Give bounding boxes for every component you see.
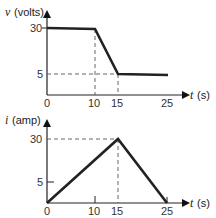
- x-tick-25: 25: [161, 205, 173, 217]
- x-tick-25: 25: [161, 97, 173, 109]
- y-axis-unit: (amp): [12, 114, 41, 126]
- y-axis-unit: (volts): [14, 6, 44, 18]
- x-tick-10: 10: [88, 97, 100, 109]
- y-axis-var: i: [5, 113, 8, 127]
- x-tick-15: 15: [111, 205, 123, 217]
- x-tick-0: 0: [44, 97, 50, 109]
- y-axis-var: v: [5, 5, 11, 19]
- x-axis-var: t: [190, 88, 194, 102]
- current-chart: i (amp) 30 5 0 10 15 25 t (s): [5, 113, 210, 217]
- charts-canvas: v (volts) 30 5 0 10 15 25 t (s) i (amp) …: [0, 0, 216, 218]
- x-tick-15: 15: [111, 97, 123, 109]
- y-tick-30: 30: [30, 22, 42, 34]
- x-tick-10: 10: [88, 205, 100, 217]
- x-axis-unit: (s): [197, 197, 210, 209]
- current-line: [47, 139, 167, 203]
- y-tick-30: 30: [30, 133, 42, 145]
- x-axis-unit: (s): [197, 89, 210, 101]
- y-tick-5: 5: [37, 68, 43, 80]
- x-axis-var: t: [190, 196, 194, 210]
- y-tick-5: 5: [37, 176, 43, 188]
- voltage-chart: v (volts) 30 5 0 10 15 25 t (s): [5, 5, 210, 109]
- x-tick-0: 0: [44, 205, 50, 217]
- voltage-line: [47, 28, 168, 75]
